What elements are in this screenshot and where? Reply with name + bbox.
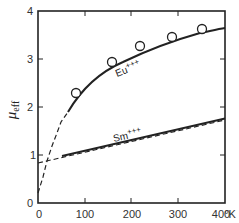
x-tick-300: 300	[169, 208, 187, 220]
y-axis-label-sub: eff	[10, 100, 21, 112]
x-tick-100: 100	[76, 208, 94, 220]
svg-text:Eu+++: Eu+++	[113, 57, 143, 79]
y-axis-label: μeff	[3, 100, 21, 120]
eu-point-3	[136, 42, 145, 51]
eu-point-2	[108, 58, 117, 67]
x-unit-label: °K	[224, 208, 236, 220]
x-tick-0: 0	[36, 208, 42, 220]
y-tick-3: 3	[27, 53, 33, 65]
eu-data-points	[72, 25, 207, 98]
sm-label-sup: +++	[126, 125, 142, 137]
y-tick-4: 4	[27, 5, 33, 17]
y-tick-2: 2	[27, 101, 33, 113]
x-tick-200: 200	[123, 208, 141, 220]
chart: 0 1 2 3 4 0 100 200 300 400 °K μeff Eu++…	[0, 0, 239, 223]
eu-point-4	[168, 33, 177, 42]
y-tick-0: 0	[27, 197, 33, 209]
svg-text:μeff: μeff	[3, 100, 21, 120]
eu-point-1	[72, 89, 81, 98]
eu-point-5	[198, 25, 207, 34]
sm-solid-line	[62, 119, 225, 157]
plot-frame	[38, 11, 225, 203]
eu-label: Eu+++	[113, 57, 143, 79]
eu-dashed-curve	[38, 112, 68, 193]
eu-label-sup: +++	[124, 57, 141, 71]
y-tick-1: 1	[30, 149, 36, 161]
eu-solid-curve	[68, 28, 225, 112]
